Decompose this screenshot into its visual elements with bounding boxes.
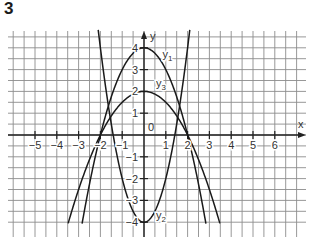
x-tick-label: −3: [72, 139, 85, 151]
y-axis-arrow-icon: [141, 31, 147, 39]
x-tick-label: 4: [228, 139, 234, 151]
x-tick-label: 2: [185, 139, 191, 151]
labels: −5−4−3−2−1123456−4−3−2−112340xyy1y2y3: [29, 30, 304, 228]
curve-label-y3: y3: [156, 77, 167, 92]
y-tick-label: 2: [132, 85, 138, 97]
y-tick-label: 3: [132, 64, 138, 76]
parabola-chart: −5−4−3−2−1123456−4−3−2−112340xyy1y2y3: [0, 0, 313, 247]
y-axis-label: y: [150, 30, 156, 42]
x-axis-arrow-icon: [298, 132, 306, 138]
x-tick-label: −1: [116, 139, 129, 151]
y-tick-label: −2: [125, 173, 138, 185]
y-tick-label: 1: [132, 107, 138, 119]
y-tick-label: −3: [125, 194, 138, 206]
y-tick-label: −1: [125, 151, 138, 163]
origin-label: 0: [148, 121, 154, 133]
x-axis-label: x: [298, 118, 304, 130]
x-tick-label: 5: [250, 139, 256, 151]
curve-label-y1: y1: [163, 48, 174, 63]
y-tick-label: −4: [125, 216, 138, 228]
x-tick-label: 6: [272, 139, 278, 151]
x-tick-label: 1: [163, 139, 169, 151]
x-tick-label: −2: [94, 139, 107, 151]
y-tick-label: 4: [132, 42, 138, 54]
x-tick-label: −5: [29, 139, 42, 151]
x-tick-label: 3: [206, 139, 212, 151]
x-tick-label: −4: [51, 139, 64, 151]
